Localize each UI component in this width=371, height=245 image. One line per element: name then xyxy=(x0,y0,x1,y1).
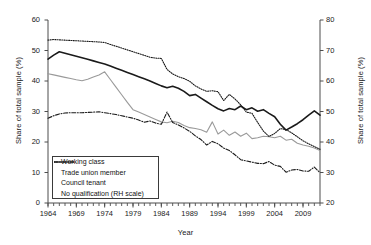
y-tick-right-60: 60 xyxy=(326,76,348,85)
y-tick-right-80: 80 xyxy=(326,15,348,24)
x-tick-1989: 1989 xyxy=(175,209,205,218)
y-tick-right-30: 30 xyxy=(326,168,348,177)
y-tick-right-40: 40 xyxy=(326,137,348,146)
y-tick-left-60: 60 xyxy=(18,15,40,24)
x-tick-1964: 1964 xyxy=(33,209,63,218)
series-line-trade-union-member xyxy=(48,72,320,151)
x-tick-1974: 1974 xyxy=(90,209,120,218)
series-line-working-class xyxy=(48,52,320,130)
legend-label-trade-union-member: Trade union member xyxy=(61,168,126,178)
series-line-no-qualification-rh-scale xyxy=(48,40,320,150)
x-tick-1969: 1969 xyxy=(61,209,91,218)
y-tick-left-0: 0 xyxy=(18,198,40,207)
y-tick-right-20: 20 xyxy=(326,198,348,207)
x-tick-1984: 1984 xyxy=(146,209,176,218)
y-tick-left-30: 30 xyxy=(18,107,40,116)
y-tick-left-20: 20 xyxy=(18,137,40,146)
legend-item-no-qualification: No qualification (RH scale) xyxy=(57,189,158,200)
y-tick-left-40: 40 xyxy=(18,76,40,85)
legend-item-trade-union-member: Trade union member xyxy=(57,168,158,179)
x-tick-1999: 1999 xyxy=(231,209,261,218)
chart-figure: Share of total sample (%) Share of total… xyxy=(0,0,371,245)
y-tick-left-50: 50 xyxy=(18,46,40,55)
x-tick-1979: 1979 xyxy=(118,209,148,218)
legend-swatch-no-qualification xyxy=(53,157,75,167)
legend-label-no-qualification: No qualification (RH scale) xyxy=(61,189,144,199)
legend-label-council-tenant: Council tenant xyxy=(61,178,106,188)
x-tick-2004: 2004 xyxy=(260,209,290,218)
y-tick-right-50: 50 xyxy=(326,107,348,116)
y-tick-right-70: 70 xyxy=(326,46,348,55)
legend-item-council-tenant: Council tenant xyxy=(57,178,158,189)
x-tick-1994: 1994 xyxy=(203,209,233,218)
y-tick-left-10: 10 xyxy=(18,168,40,177)
chart-legend: Working class Trade union member Council… xyxy=(52,156,159,199)
x-tick-2009: 2009 xyxy=(288,209,318,218)
